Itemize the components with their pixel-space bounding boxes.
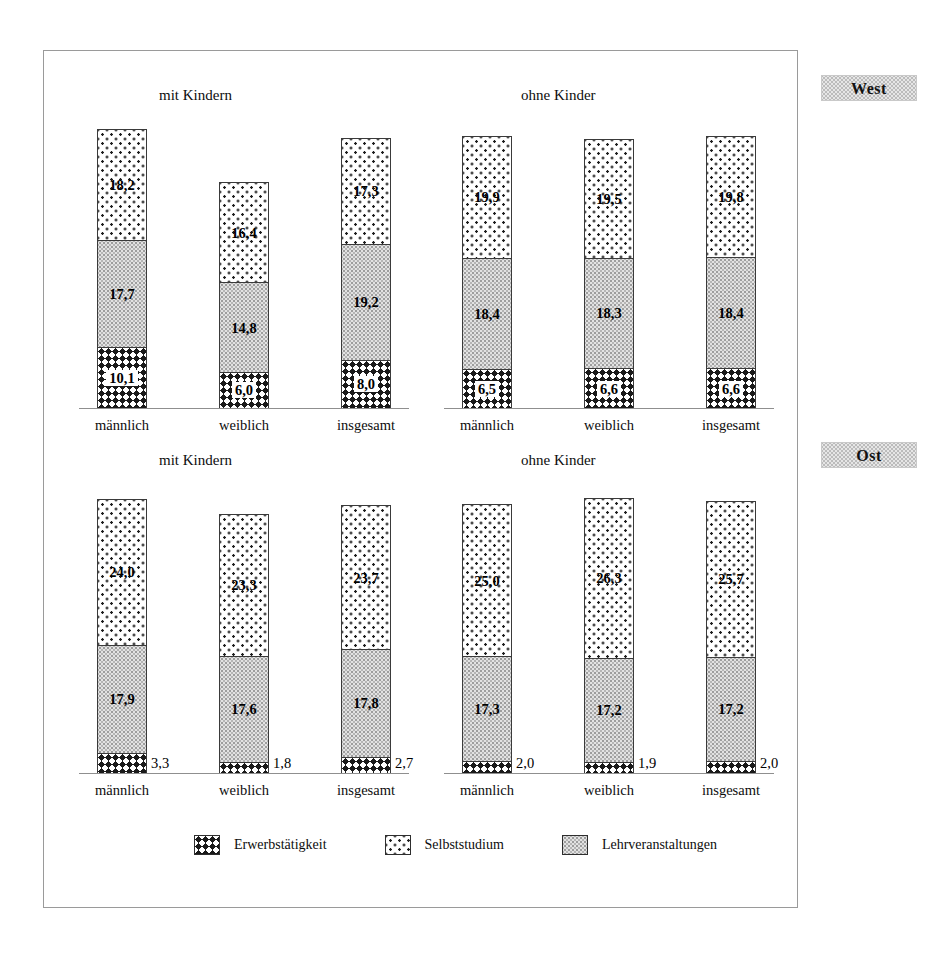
bar-column-weiblich[interactable]: 16,414,86,0 <box>219 182 269 408</box>
cat-label-weiblich: weiblich <box>189 782 299 799</box>
segment-value-label: 26,3 <box>596 570 621 586</box>
segment-value-label: 23,7 <box>353 570 378 586</box>
segment-erwerbstaetigkeit[interactable] <box>585 762 633 773</box>
legend-label-selbststudium: Selbststudium <box>425 837 504 853</box>
segment-lehrveranstaltungen[interactable]: 19,2 <box>342 244 390 360</box>
segment-lehrveranstaltungen[interactable]: 17,9 <box>98 645 146 753</box>
stacked-bar[interactable]: 25,017,3 <box>462 504 512 773</box>
cat-label-weiblich: weiblich <box>554 782 664 799</box>
segment-lehrveranstaltungen[interactable]: 14,8 <box>220 282 268 371</box>
segment-selbststudium[interactable]: 25,7 <box>707 502 755 657</box>
segment-selbststudium[interactable]: 23,7 <box>342 506 390 649</box>
category-axis-labels: männlich weiblich insgesamt <box>79 774 409 804</box>
segment-lehrveranstaltungen[interactable]: 17,2 <box>585 658 633 762</box>
segment-value-label: 25,7 <box>718 571 743 587</box>
bar-column-weiblich[interactable]: 23,317,61,8 <box>219 514 269 773</box>
segment-value-label: 19,9 <box>474 189 499 205</box>
segment-lehrveranstaltungen[interactable]: 18,4 <box>707 257 755 368</box>
plot-ost-mit-kindern: männlich weiblich insgesamt 24,017,93,32… <box>79 484 409 774</box>
segment-value-label: 6,6 <box>719 381 743 397</box>
segment-lehrveranstaltungen[interactable]: 17,8 <box>342 649 390 757</box>
segment-lehrveranstaltungen[interactable]: 17,3 <box>463 656 511 761</box>
panel-ost: mit Kindern ohne Kinder männlich weiblic… <box>44 416 797 796</box>
segment-erwerbstaetigkeit[interactable]: 6,6 <box>585 368 633 408</box>
stacked-bar[interactable]: 17,319,28,0 <box>341 138 391 408</box>
plot-west-ohne-kinder: männlich weiblich insgesamt 19,918,46,51… <box>444 119 774 409</box>
legend-label-lehrveranstaltungen: Lehrveranstaltungen <box>602 837 717 853</box>
segment-lehrveranstaltungen[interactable]: 17,7 <box>98 240 146 347</box>
stacked-bar[interactable]: 23,317,6 <box>219 514 269 773</box>
segment-value-label: 14,8 <box>231 320 256 336</box>
segment-erwerbstaetigkeit[interactable] <box>342 757 390 773</box>
segment-selbststudium[interactable]: 19,5 <box>585 140 633 258</box>
region-label-west: West <box>821 75 917 101</box>
segment-value-label: 8,0 <box>354 376 378 392</box>
segment-selbststudium[interactable]: 16,4 <box>220 183 268 282</box>
bar-column-männlich[interactable]: 24,017,93,3 <box>97 499 147 773</box>
group-title-west-ohne-kinder: ohne Kinder <box>521 87 596 104</box>
segment-value-label-outside: 2,0 <box>516 755 534 771</box>
group-title-west-mit-kindern: mit Kindern <box>159 87 232 104</box>
bar-column-insgesamt[interactable]: 19,818,46,6 <box>706 136 756 408</box>
segment-value-label: 18,3 <box>596 305 621 321</box>
segment-value-label: 17,8 <box>353 695 378 711</box>
segment-erwerbstaetigkeit[interactable]: 6,5 <box>463 369 511 408</box>
stacked-bar[interactable]: 25,717,2 <box>706 501 756 773</box>
segment-lehrveranstaltungen[interactable]: 18,3 <box>585 258 633 369</box>
segment-value-label: 17,6 <box>231 701 256 717</box>
segment-erwerbstaetigkeit[interactable]: 6,6 <box>707 368 755 408</box>
stacked-bar[interactable]: 24,017,9 <box>97 499 147 773</box>
segment-erwerbstaetigkeit[interactable] <box>98 753 146 773</box>
segment-selbststudium[interactable]: 26,3 <box>585 499 633 658</box>
segment-erwerbstaetigkeit[interactable]: 8,0 <box>342 360 390 408</box>
segment-value-label: 10,1 <box>106 370 137 386</box>
segment-erwerbstaetigkeit[interactable] <box>220 762 268 773</box>
stacked-bar[interactable]: 19,518,36,6 <box>584 139 634 408</box>
segment-value-label: 6,0 <box>232 382 256 398</box>
segment-erwerbstaetigkeit[interactable]: 10,1 <box>98 347 146 408</box>
stacked-bar[interactable]: 18,217,710,1 <box>97 129 147 408</box>
bar-column-insgesamt[interactable]: 17,319,28,0 <box>341 138 391 408</box>
bar-column-insgesamt[interactable]: 25,717,22,0 <box>706 501 756 773</box>
stacked-bar[interactable]: 26,317,2 <box>584 498 634 773</box>
segment-selbststudium[interactable]: 19,8 <box>707 137 755 257</box>
segment-value-label: 16,4 <box>231 225 256 241</box>
cat-label-insgesamt: insgesamt <box>311 782 421 799</box>
cat-label-insgesamt: insgesamt <box>676 782 786 799</box>
segment-lehrveranstaltungen[interactable]: 18,4 <box>463 258 511 369</box>
segment-value-label: 24,0 <box>109 564 134 580</box>
segment-value-label-outside: 2,7 <box>395 755 413 771</box>
segment-value-label: 18,4 <box>718 305 743 321</box>
bar-column-männlich[interactable]: 19,918,46,5 <box>462 136 512 408</box>
segment-value-label: 6,5 <box>475 381 499 397</box>
segment-value-label-outside: 3,3 <box>151 755 169 771</box>
segment-erwerbstaetigkeit[interactable] <box>463 761 511 773</box>
bar-column-männlich[interactable]: 25,017,32,0 <box>462 504 512 773</box>
stacked-bar[interactable]: 19,818,46,6 <box>706 136 756 408</box>
figure-frame: mit Kindern ohne Kinder männlich weiblic… <box>43 50 798 908</box>
segment-value-label: 17,7 <box>109 286 134 302</box>
legend-item-lehrveranstaltungen: Lehrveranstaltungen <box>562 835 717 855</box>
legend-item-erwerbstaetigkeit: Erwerbstätigkeit <box>194 835 327 855</box>
plot-ost-ohne-kinder: männlich weiblich insgesamt 25,017,32,02… <box>444 484 774 774</box>
segment-value-label-outside: 1,9 <box>638 755 656 771</box>
stacked-bar[interactable]: 23,717,8 <box>341 505 391 773</box>
segment-selbststudium[interactable]: 19,9 <box>463 137 511 257</box>
segment-selbststudium[interactable]: 18,2 <box>98 130 146 240</box>
bar-column-weiblich[interactable]: 26,317,21,9 <box>584 498 634 773</box>
segment-value-label: 17,2 <box>718 701 743 717</box>
stacked-bar[interactable]: 19,918,46,5 <box>462 136 512 408</box>
segment-selbststudium[interactable]: 17,3 <box>342 139 390 244</box>
bar-column-insgesamt[interactable]: 23,717,82,7 <box>341 505 391 773</box>
bar-column-männlich[interactable]: 18,217,710,1 <box>97 129 147 408</box>
segment-selbststudium[interactable]: 23,3 <box>220 515 268 656</box>
segment-lehrveranstaltungen[interactable]: 17,6 <box>220 656 268 762</box>
segment-erwerbstaetigkeit[interactable]: 6,0 <box>220 372 268 408</box>
stacked-bar[interactable]: 16,414,86,0 <box>219 182 269 408</box>
segment-selbststudium[interactable]: 24,0 <box>98 500 146 645</box>
segment-selbststudium[interactable]: 25,0 <box>463 505 511 656</box>
segment-lehrveranstaltungen[interactable]: 17,2 <box>707 657 755 761</box>
segment-erwerbstaetigkeit[interactable] <box>707 761 755 773</box>
segment-value-label: 23,3 <box>231 577 256 593</box>
bar-column-weiblich[interactable]: 19,518,36,6 <box>584 139 634 408</box>
